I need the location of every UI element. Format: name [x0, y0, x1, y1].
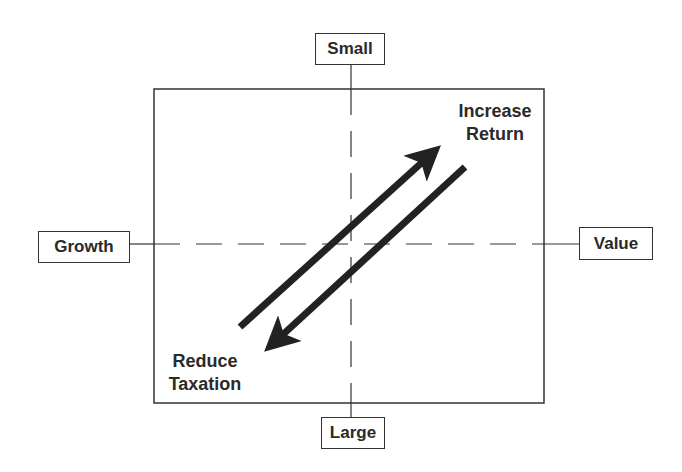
axis-label-large: Large — [321, 417, 385, 449]
axis-label-small-text: Small — [327, 39, 372, 59]
increase-return-line2: Return — [440, 123, 550, 146]
axis-label-small: Small — [315, 33, 385, 65]
axis-label-value-text: Value — [594, 234, 638, 254]
increase-return-label: Increase Return — [440, 100, 550, 146]
axis-label-large-text: Large — [330, 423, 376, 443]
axis-label-growth: Growth — [38, 231, 130, 263]
reduce-taxation-line2: Taxation — [150, 373, 260, 396]
style-quadrant-diagram: Small Large Growth Value Increase Return… — [0, 0, 682, 472]
increase-return-arrow — [240, 157, 428, 327]
increase-return-line1: Increase — [440, 100, 550, 123]
reduce-taxation-arrow — [277, 167, 465, 340]
reduce-taxation-label: Reduce Taxation — [150, 350, 260, 396]
axis-label-growth-text: Growth — [54, 237, 114, 257]
axis-label-value: Value — [579, 227, 653, 260]
reduce-taxation-line1: Reduce — [150, 350, 260, 373]
